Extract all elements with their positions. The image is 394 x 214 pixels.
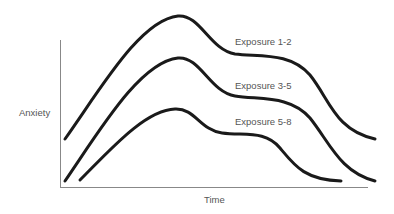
series-label-exposure-1-2: Exposure 1-2: [235, 36, 292, 47]
chart-canvas: [0, 0, 394, 214]
curve-exposure-5-8: [80, 109, 341, 181]
anxiety-exposure-chart: Anxiety Time Exposure 1-2 Exposure 3-5 E…: [0, 0, 394, 214]
series-label-exposure-5-8: Exposure 5-8: [235, 116, 292, 127]
series-label-exposure-3-5: Exposure 3-5: [235, 80, 292, 91]
curve-exposure-3-5: [65, 58, 375, 181]
y-axis-label: Anxiety: [19, 107, 50, 118]
curve-exposure-1-2: [65, 16, 375, 139]
x-axis-label: Time: [204, 194, 225, 205]
